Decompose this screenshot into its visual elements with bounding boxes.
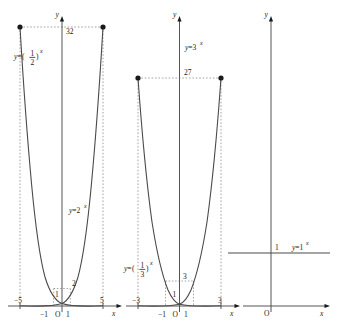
value-label-1-panel3: 1 (275, 243, 279, 252)
eq2-exponent: x (83, 203, 87, 209)
origin-label-panel3: O (264, 309, 270, 318)
svg-text:y=2: y=2 (68, 206, 81, 215)
svg-text:y=3: y=3 (184, 43, 197, 52)
y-axis-arrow-panel2 (177, 16, 181, 22)
tick-label-neg1-panel1: −1 (40, 310, 48, 319)
eq1-exponent: x (39, 48, 43, 54)
x-axis-arrow-panel2 (235, 304, 241, 308)
x-axis-arrow-panel1 (117, 304, 123, 308)
value-label-3-panel2: 3 (183, 272, 187, 281)
eq2-base: 2 (77, 206, 81, 215)
x-axis-label-panel2: x (229, 309, 234, 318)
tick-label-pos3-panel2: 3 (218, 296, 222, 305)
equation-label-3-power-x: y=3 x (184, 40, 203, 52)
x-axis-arrow-panel3 (325, 304, 331, 308)
eq1-equals: = (17, 52, 21, 61)
panel-base-3: y x 27 3 1 −3 3 −1 O 1 y=( 1 3 ) x (123, 10, 240, 319)
value-label-1-panel2: 1 (173, 290, 177, 299)
value-label-2-panel1: 2 (72, 279, 76, 288)
tick-label-pos1-panel1: 1 (66, 310, 70, 319)
eq3-close-paren: ) (146, 264, 149, 273)
origin-label-panel1: O (55, 310, 61, 319)
equation-label-2-power-x: y=2 x (68, 203, 87, 215)
eq4-exponent: x (199, 40, 203, 46)
value-label-27: 27 (184, 68, 192, 77)
x-axis-label-panel3: x (319, 309, 324, 318)
value-label-32: 32 (66, 27, 74, 36)
y-axis-label-panel1: y (55, 10, 60, 19)
eq3-equals: = (127, 264, 131, 273)
eq1-numerator: 1 (30, 49, 34, 58)
equation-label-1-power-x: y=1 x (291, 240, 309, 252)
panel-base-1: y x 1 O y=1 x (228, 10, 330, 318)
eq3-open-paren: ( (132, 264, 135, 273)
eq5-exponent: x (305, 240, 309, 246)
eq1-denominator: 2 (30, 58, 34, 67)
y-axis-arrow-panel1 (60, 16, 64, 22)
marked-point-pos3-27 (218, 75, 223, 80)
svg-text:y=1: y=1 (291, 243, 304, 252)
tick-label-pos5-panel1: 5 (100, 296, 104, 305)
panel-base-2: y x 32 2 1 −5 5 −1 O 1 y=( 1 2 ) x (8, 10, 122, 319)
eq3-exponent: x (149, 260, 153, 266)
svg-text:y=(: y=( (13, 52, 25, 61)
marked-point-neg3-27 (135, 75, 140, 80)
marked-point-pos5-32 (100, 24, 105, 29)
y-axis-arrow-panel3 (269, 16, 273, 22)
tick-label-neg1-panel2: −1 (158, 310, 166, 319)
y-axis-label-panel2: y (172, 10, 177, 19)
value-label-1-panel1: 1 (55, 290, 59, 299)
x-axis-label-panel1: x (111, 309, 116, 318)
origin-label-panel2: O (173, 310, 179, 319)
eq3-denominator: 3 (140, 270, 144, 279)
eq4-base: 3 (193, 43, 197, 52)
plot-canvas: y x 32 2 1 −5 5 −1 O 1 y=( 1 2 ) x (0, 0, 338, 330)
marked-point-neg5-32 (17, 24, 22, 29)
eq1-open-paren: ( (22, 52, 25, 61)
svg-text:y=(: y=( (123, 264, 135, 273)
eq3-numerator: 1 (140, 261, 144, 270)
equation-label-half-power-x: y=( 1 2 ) x (13, 48, 43, 67)
tick-label-neg3-panel2: −3 (132, 296, 140, 305)
tick-label-pos1-panel2: 1 (184, 310, 188, 319)
eq5-base: 1 (300, 243, 304, 252)
tick-label-neg5-panel1: −5 (14, 296, 22, 305)
exponential-functions-figure: y x 32 2 1 −5 5 −1 O 1 y=( 1 2 ) x (0, 0, 338, 330)
eq1-close-paren: ) (36, 52, 39, 61)
y-axis-label-panel3: y (264, 10, 269, 19)
